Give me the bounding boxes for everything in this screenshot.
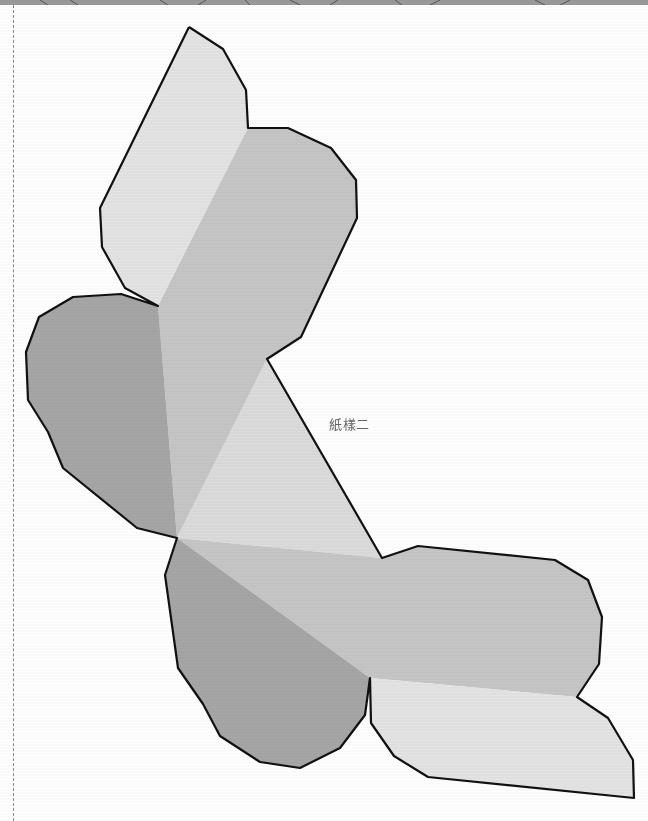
pattern-label: 紙樣二 bbox=[329, 414, 370, 433]
paper-net-diagram bbox=[0, 0, 648, 821]
hatch-texture bbox=[0, 0, 648, 821]
